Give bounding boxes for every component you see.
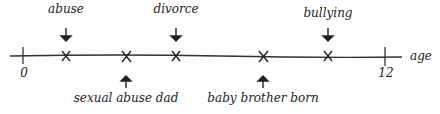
start-age-label: 0 bbox=[20, 66, 28, 80]
event-label-abuse: abuse bbox=[48, 2, 84, 16]
axis-label: age bbox=[410, 49, 432, 63]
event-label-bullying: bullying bbox=[303, 6, 352, 20]
event-label-sexual-abuse-dad: sexual abuse dad bbox=[74, 91, 179, 105]
event-label-divorce: divorce bbox=[153, 2, 198, 16]
up-arrows bbox=[121, 76, 268, 88]
end-age-label: 12 bbox=[378, 66, 393, 80]
event-label-baby-brother-born: baby brother born bbox=[207, 91, 318, 105]
timeline-axis bbox=[10, 55, 402, 57]
down-arrows bbox=[61, 28, 333, 41]
